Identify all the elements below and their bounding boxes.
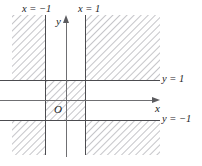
line-y-equals-negative-one (0, 120, 160, 121)
label-y-equals-one: y = 1 (162, 74, 184, 85)
region-bottom-right (85, 120, 160, 155)
region-top-right (85, 15, 160, 80)
line-y-equals-one (0, 80, 160, 81)
y-axis-arrowhead (63, 15, 69, 23)
x-axis-line (0, 100, 152, 101)
region-bottom-left (12, 120, 45, 155)
y-axis-line (66, 22, 67, 157)
label-x-axis: x (155, 103, 160, 114)
line-x-equals-one (85, 15, 86, 155)
label-x-equals-negative-one: x = −1 (22, 4, 51, 15)
region-top-left (12, 15, 45, 80)
inequality-region-figure: x = −1 x = 1 y x y = 1 y = −1 O (0, 0, 202, 166)
label-x-equals-one: x = 1 (78, 4, 100, 15)
line-x-equals-negative-one (45, 15, 46, 155)
label-y-axis: y (56, 16, 61, 27)
label-y-equals-negative-one: y = −1 (162, 114, 191, 125)
label-origin: O (54, 104, 62, 115)
